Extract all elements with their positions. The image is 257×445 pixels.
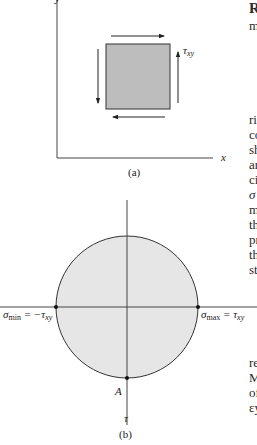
y-axis-label: y xyxy=(55,0,60,4)
sigma-min-label: σmin = −τxy xyxy=(3,309,52,323)
text-fragment: re xyxy=(249,356,257,369)
text-fragment: m xyxy=(249,19,257,32)
stress-element xyxy=(106,44,170,109)
shear-label-subscript: xy xyxy=(187,49,194,58)
x-axis-label: x xyxy=(221,152,226,163)
text-fragment: sh xyxy=(249,143,257,156)
point-sigma-max xyxy=(196,305,200,309)
text-fragment: σ xyxy=(249,188,255,201)
text-fragment: of xyxy=(249,386,257,399)
text-fragment: ri xyxy=(249,113,257,126)
sigma-max-value: = τ xyxy=(220,308,237,320)
tau-axis-label: τ xyxy=(124,413,128,424)
shear-label: τxy xyxy=(183,45,194,59)
sigma-min-value-subscript: xy xyxy=(45,313,52,322)
figure-a-caption: (a) xyxy=(128,167,140,178)
mohr-circle-figure xyxy=(0,0,257,445)
text-fragment: pr xyxy=(249,233,257,246)
text-fragment: st xyxy=(249,263,257,276)
sigma-max-value-subscript: xy xyxy=(237,313,244,322)
point-a-label: A xyxy=(115,386,122,397)
sigma-max-label: σmax = τxy xyxy=(201,309,244,323)
text-fragment: ar xyxy=(249,158,257,171)
text-fragment: εy xyxy=(249,401,257,414)
text-fragment: M xyxy=(249,371,257,384)
text-fragment: m xyxy=(249,203,257,216)
text-fragment: R xyxy=(249,2,257,15)
sigma-min-value: = −τ xyxy=(21,308,45,320)
point-sigma-min xyxy=(54,305,58,309)
sigma-max-subscript: max xyxy=(206,313,220,322)
figure-b-caption: (b) xyxy=(119,429,132,440)
text-fragment: th xyxy=(249,248,257,261)
sigma-min-subscript: min xyxy=(8,313,20,322)
text-fragment: th xyxy=(249,218,257,231)
text-fragment: co xyxy=(249,128,257,141)
point-a xyxy=(125,376,129,380)
text-fragment: ci xyxy=(249,173,257,186)
